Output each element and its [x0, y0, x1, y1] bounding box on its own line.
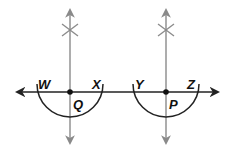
label-x: X — [91, 77, 102, 92]
label-w: W — [38, 77, 52, 92]
perpendicular-line-q — [62, 10, 78, 143]
label-p: P — [169, 97, 178, 112]
point-q — [67, 89, 73, 95]
label-q: Q — [73, 97, 83, 112]
perpendicular-line-p — [158, 10, 174, 143]
geometry-diagram: W X Q Y Z P — [0, 0, 234, 155]
label-y: Y — [135, 77, 145, 92]
label-z: Z — [186, 77, 196, 92]
point-p — [163, 89, 169, 95]
